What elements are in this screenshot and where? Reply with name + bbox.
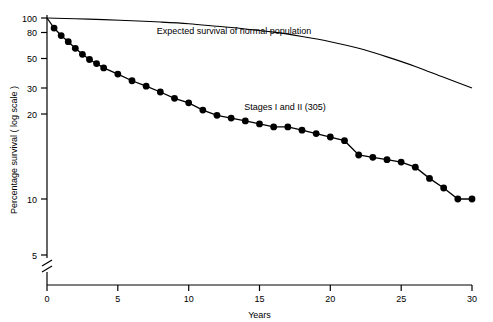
x-tick-label-20: 20 [325,294,335,304]
x-tick-label-25: 25 [396,294,406,304]
x-axis-ticks [47,285,472,291]
x-tick-label-10: 10 [184,294,194,304]
data-point-marker [65,38,72,45]
data-point-marker [355,152,362,159]
data-point-marker [51,25,58,32]
axes [42,15,472,285]
data-point-marker [100,65,107,72]
y-axis-ticks [41,18,47,255]
data-point-marker [256,120,263,127]
data-point-marker [86,56,93,63]
data-point-marker [426,175,433,182]
data-point-marker [114,71,121,78]
data-point-marker [79,51,86,58]
y-tick-label-5: 5 [32,251,37,261]
x-tick-label-5: 5 [115,294,120,304]
data-point-marker [327,134,334,141]
data-point-marker [93,60,100,67]
data-point-marker [58,32,65,39]
data-point-marker [284,124,291,131]
y-axis-tick-labels: 100 80 50 30 20 10 5 [22,14,37,261]
annotation-stages: Stages I and II (305) [244,102,326,112]
y-tick-label-100: 100 [22,14,37,24]
data-point-marker [341,137,348,144]
data-point-marker [299,127,306,134]
data-point-marker [171,95,178,102]
data-point-marker [214,112,221,119]
data-point-marker [199,107,206,114]
data-point-marker [454,196,461,203]
stages-survival-markers [51,25,476,203]
x-tick-label-15: 15 [254,294,264,304]
annotation-expected-survival: Expected survival of normal population [157,26,312,36]
data-point-marker [398,159,405,166]
data-point-marker [412,164,419,171]
data-point-marker [469,196,476,203]
y-tick-label-20: 20 [27,110,37,120]
data-point-marker [384,156,391,163]
data-point-marker [129,77,136,84]
data-point-marker [185,99,192,106]
data-point-marker [440,185,447,192]
data-point-marker [72,45,79,52]
y-tick-label-10: 10 [27,195,37,205]
x-tick-label-0: 0 [44,294,49,304]
x-tick-label-30: 30 [467,294,477,304]
chart-canvas: 100 80 50 30 20 10 5 0 5 10 15 20 25 30 [0,0,493,322]
x-axis-title: Years [248,310,271,320]
data-point-marker [228,115,235,122]
axis-break-mark-lower [42,266,52,272]
y-tick-label-80: 80 [27,28,37,38]
y-tick-label-30: 30 [27,84,37,94]
data-point-marker [242,118,249,125]
data-point-marker [313,130,320,137]
data-point-marker [369,154,376,161]
data-point-marker [157,89,164,96]
axis-break-mark-upper [42,260,52,266]
survival-chart: 100 80 50 30 20 10 5 0 5 10 15 20 25 30 [0,0,493,322]
data-point-marker [270,124,277,131]
x-axis-tick-labels: 0 5 10 15 20 25 30 [44,294,477,304]
y-tick-label-50: 50 [27,54,37,64]
y-axis-title: Percentage survival ( log scale ) [9,86,19,214]
data-point-marker [143,83,150,90]
